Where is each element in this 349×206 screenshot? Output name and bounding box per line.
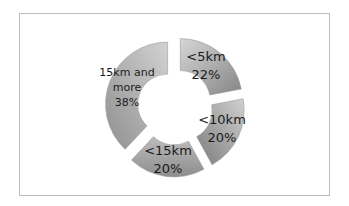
label-lt15km-name: <15km bbox=[144, 143, 192, 158]
label-lt15km-pct: 20% bbox=[154, 161, 183, 176]
label-lt10km-name: <10km bbox=[198, 112, 246, 127]
label-lt5km-name: <5km bbox=[186, 49, 225, 64]
label-15km-name-line2: more bbox=[113, 81, 142, 94]
label-lt5km-pct: 22% bbox=[192, 67, 221, 82]
doughnut-chart: <5km 22% <10km 20% <15km 20% 15km and mo… bbox=[0, 0, 349, 206]
label-lt10km-pct: 20% bbox=[208, 130, 237, 145]
label-15km-pct: 38% bbox=[115, 96, 139, 109]
label-15km-name-line1: 15km and bbox=[99, 66, 154, 79]
